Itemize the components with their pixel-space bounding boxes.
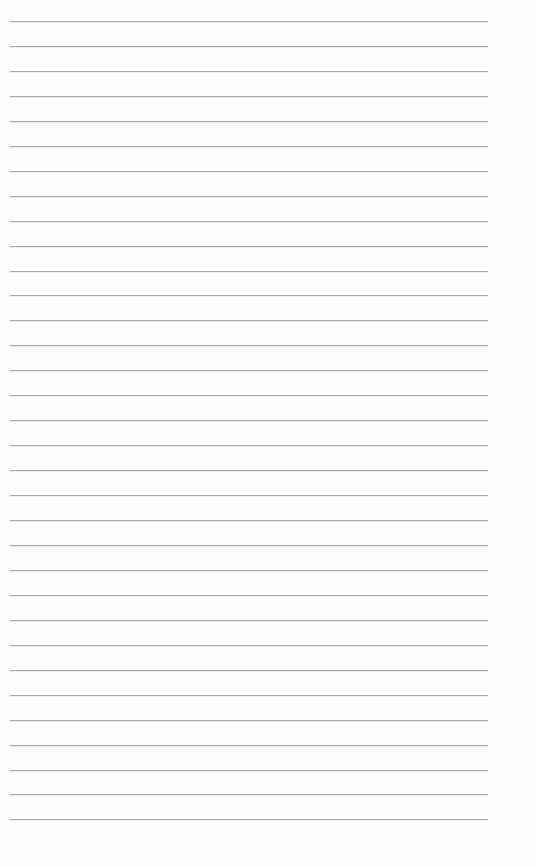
lined-paper-page	[0, 0, 536, 866]
ruled-line	[10, 345, 488, 346]
ruled-line	[10, 171, 488, 172]
ruled-line	[10, 221, 488, 222]
ruled-line	[10, 246, 488, 247]
ruled-line	[10, 271, 488, 272]
ruled-line	[10, 146, 488, 147]
ruled-line	[10, 645, 488, 646]
ruled-line	[10, 121, 488, 122]
ruled-line	[10, 670, 488, 671]
ruled-line	[10, 96, 488, 97]
ruled-line	[10, 470, 488, 471]
ruled-line	[10, 794, 488, 795]
ruled-line	[10, 320, 488, 321]
ruled-line	[10, 46, 488, 47]
ruled-line	[10, 445, 488, 446]
ruled-line	[10, 520, 488, 521]
ruled-line	[10, 495, 488, 496]
ruled-line	[10, 370, 488, 371]
ruled-line	[10, 695, 488, 696]
ruled-line	[10, 620, 488, 621]
ruled-line	[10, 745, 488, 746]
ruled-line	[10, 570, 488, 571]
ruled-line	[10, 71, 488, 72]
ruled-line	[10, 545, 488, 546]
ruled-line	[10, 420, 488, 421]
ruled-line	[10, 21, 488, 22]
ruled-line	[10, 595, 488, 596]
ruled-line	[10, 720, 488, 721]
ruled-line	[10, 295, 488, 296]
ruled-line	[10, 196, 488, 197]
ruled-line	[10, 395, 488, 396]
ruled-line	[10, 819, 488, 820]
ruled-line	[10, 770, 488, 771]
